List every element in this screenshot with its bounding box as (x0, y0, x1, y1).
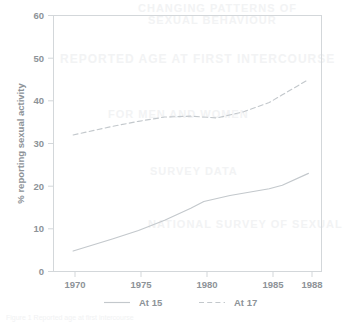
series-line-at-15 (73, 173, 308, 251)
chart-legend: At 15 At 17 (104, 297, 257, 308)
x-tick-label: 1988 (301, 279, 322, 290)
x-axis-tick-labels: 1970 1975 1980 1985 1988 (64, 279, 322, 290)
clipped-caption: Figure 1 Reported age at first intercour… (6, 314, 216, 322)
y-tick-label: 40 (33, 95, 44, 106)
y-tick-label: 30 (33, 138, 44, 149)
plot-frame (54, 16, 322, 272)
y-tick-label: 20 (33, 181, 44, 192)
y-axis-ticks (48, 16, 54, 272)
x-tick-label: 1980 (196, 279, 217, 290)
y-tick-label: 60 (33, 10, 44, 21)
y-axis-tick-labels: 60 50 40 30 20 10 0 (33, 10, 44, 277)
line-chart: 60 50 40 30 20 10 0 % reporting sexual a… (0, 0, 343, 322)
y-tick-label: 10 (33, 223, 44, 234)
y-tick-label: 0 (39, 266, 44, 277)
x-tick-label: 1975 (130, 279, 152, 290)
chart-figure: CHANGING PATTERNS OF SEXUAL BEHAVIOUR RE… (0, 0, 343, 322)
x-tick-label: 1970 (64, 279, 85, 290)
y-tick-label: 50 (33, 53, 44, 64)
x-axis-ticks (75, 272, 312, 278)
x-tick-label: 1985 (262, 279, 284, 290)
series-line-at-17 (73, 80, 308, 135)
y-axis-title: % reporting sexual activity (15, 83, 26, 204)
legend-label-at-15: At 15 (139, 297, 163, 308)
legend-label-at-17: At 17 (234, 297, 257, 308)
